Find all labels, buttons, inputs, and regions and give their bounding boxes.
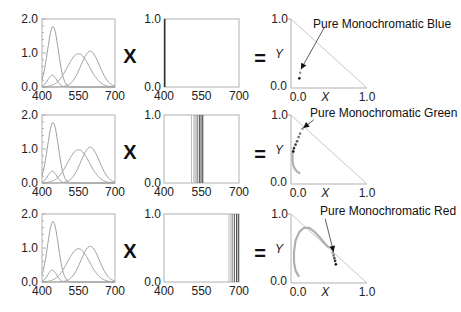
cmf-curve [42, 27, 115, 88]
x-axis-label: X [320, 285, 330, 299]
x-tick-label: 1.0 [359, 90, 376, 104]
x-tick-label: 700 [229, 284, 249, 298]
x-tick-label: 400 [32, 89, 52, 103]
x-tick-label: 550 [68, 284, 88, 298]
equals-operator: = [254, 47, 266, 69]
y-tick-label: 0.0 [270, 175, 287, 189]
y-tick-label: 1.0 [21, 46, 38, 60]
annotation-label: Pure Monochromatic Green [310, 106, 457, 120]
chromaticity-point [298, 77, 301, 80]
y-tick-label: 0.0 [270, 79, 287, 93]
x-axis-label: X [320, 90, 330, 104]
x-axis-label: X [320, 186, 330, 200]
x-tick-label: 400 [154, 284, 174, 298]
row-red: 0.01.02.0400550700X0.01.0400550700=1.00.… [21, 204, 456, 299]
x-tick-label: 700 [229, 185, 249, 199]
chromaticity-point [334, 260, 337, 263]
x-tick-label: 0.0 [290, 90, 307, 104]
y-tick-label: 1.0 [271, 108, 288, 122]
y-axis-label: Y [275, 47, 284, 61]
plot-frame [164, 19, 239, 87]
cmf-curve [42, 246, 115, 282]
x-tick-label: 0.0 [290, 186, 307, 200]
x-tick-label: 550 [191, 89, 211, 103]
x-tick-label: 1.0 [359, 285, 376, 299]
chromaticity-plot: 1.00.00.01.0XYPure Monochromatic Red [270, 204, 456, 299]
cmf-plot: 0.01.02.0400550700 [21, 12, 125, 103]
chromaticity-point [293, 147, 296, 150]
gamut-diagonal [291, 214, 367, 283]
y-tick-label: 2.0 [21, 207, 38, 221]
chromaticity-point [299, 132, 302, 135]
y-tick-label: 1.0 [21, 142, 38, 156]
cmf-plot: 0.01.02.0400550700 [21, 207, 125, 298]
y-tick-label: 1.0 [144, 12, 161, 26]
gamut-diagonal [291, 115, 367, 184]
x-tick-label: 400 [32, 284, 52, 298]
y-tick-label: 1.0 [271, 207, 288, 221]
x-tick-label: 700 [105, 185, 125, 199]
color-matching-diagram: 0.01.02.0400550700X0.01.0400550700=1.00.… [0, 0, 461, 312]
chromaticity-point [292, 150, 295, 153]
y-axis-label: Y [275, 143, 284, 157]
cmf-plot: 0.01.02.0400550700 [21, 108, 125, 199]
spectral-locus [293, 150, 300, 174]
plot-frame [42, 19, 115, 87]
x-tick-label: 400 [32, 185, 52, 199]
x-tick-label: 700 [105, 284, 125, 298]
x-tick-label: 0.0 [290, 285, 307, 299]
x-tick-label: 550 [68, 89, 88, 103]
plot-frame [164, 214, 239, 282]
x-tick-label: 400 [154, 185, 174, 199]
x-tick-label: 1.0 [359, 186, 376, 200]
y-tick-label: 2.0 [21, 108, 38, 122]
spectrum-plot: 0.01.0400550700 [144, 12, 249, 103]
chromaticity-point [294, 143, 297, 146]
annotation-label: Pure Monochromatic Red [320, 204, 456, 218]
y-tick-label: 2.0 [21, 12, 38, 26]
spectral-locus [294, 228, 328, 276]
row-blue: 0.01.02.0400550700X0.01.0400550700=1.00.… [21, 12, 451, 104]
equals-operator: = [254, 242, 266, 264]
y-axis-label: Y [275, 242, 284, 256]
x-tick-label: 550 [191, 284, 211, 298]
chromaticity-point [335, 263, 338, 266]
chromaticity-point [299, 72, 302, 75]
y-tick-label: 1.0 [144, 108, 161, 122]
chromaticity-point [297, 136, 300, 139]
chromaticity-point [296, 140, 299, 143]
annotation-arrow-line [301, 27, 325, 69]
times-operator: X [123, 141, 137, 163]
arrowhead-icon [303, 122, 310, 128]
y-tick-label: 1.0 [21, 241, 38, 255]
spectrum-plot: 0.01.0400550700 [144, 207, 249, 298]
x-tick-label: 700 [229, 89, 249, 103]
x-tick-label: 700 [105, 89, 125, 103]
cmf-curve [42, 222, 115, 283]
y-tick-label: 1.0 [144, 207, 161, 221]
cmf-curve [42, 123, 115, 184]
chromaticity-point [333, 257, 336, 260]
y-tick-label: 0.0 [270, 274, 287, 288]
plot-frame [42, 214, 115, 282]
diagram-stage: 0.01.02.0400550700X0.01.0400550700=1.00.… [0, 0, 461, 312]
plot-frame [42, 115, 115, 183]
chromaticity-plot: 1.00.00.01.0XYPure Monochromatic Green [270, 106, 457, 200]
times-operator: X [123, 240, 137, 262]
chromaticity-point [332, 254, 335, 257]
annotation-label: Pure Monochromatic Blue [313, 17, 451, 31]
chromaticity-plot: 1.00.00.01.0XYPure Monochromatic Blue [270, 12, 451, 104]
y-tick-label: 1.0 [271, 12, 288, 26]
x-tick-label: 550 [68, 185, 88, 199]
times-operator: X [123, 45, 137, 67]
spectrum-plot: 0.01.0400550700 [144, 108, 249, 199]
row-green: 0.01.02.0400550700X0.01.0400550700=1.00.… [21, 106, 457, 200]
x-tick-label: 400 [154, 89, 174, 103]
cmf-curve [42, 51, 115, 87]
x-tick-label: 550 [191, 185, 211, 199]
equals-operator: = [254, 143, 266, 165]
cmf-curve [42, 147, 115, 183]
